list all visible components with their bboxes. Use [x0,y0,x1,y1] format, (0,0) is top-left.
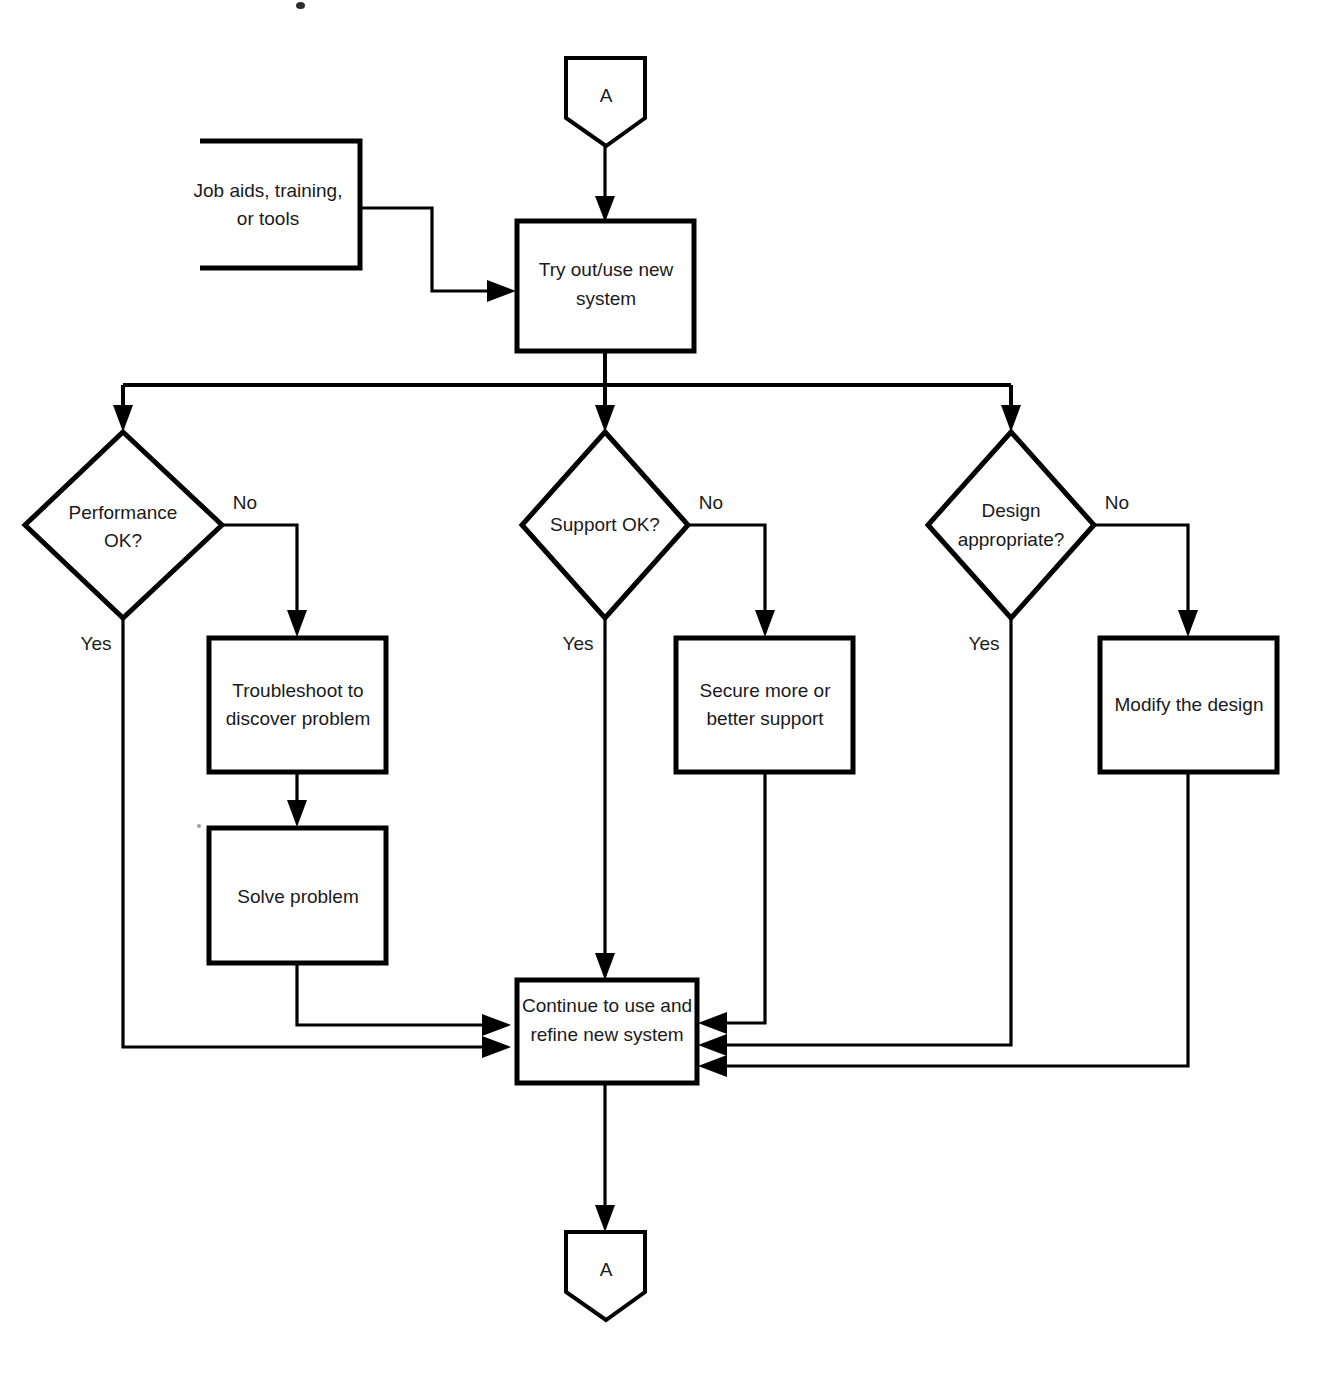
try-out-label-line2: system [576,288,636,309]
scan-speck [296,2,305,9]
arrowhead-job-aids [487,280,516,302]
secure-support-label-line1: Secure more or [700,680,832,701]
arrowhead-to-connector-a-bottom [595,1205,615,1232]
node-connector-a-bottom[interactable]: A [566,1232,645,1320]
continue-use-label-line1: Continue to use and [522,995,692,1016]
node-modify-design[interactable]: Modify the design [1100,638,1277,772]
edge-label-support-yes: Yes [563,633,594,654]
troubleshoot-label-line2: discover problem [226,708,371,729]
edge-label-design-yes: Yes [969,633,1000,654]
modify-design-label: Modify the design [1115,694,1264,715]
node-continue-use[interactable]: Continue to use and refine new system [517,980,697,1083]
decision-diamond-shape [928,432,1094,618]
node-try-out[interactable]: Try out/use new system [517,221,694,351]
process-box-shape [676,638,853,772]
edge-label-performance-no: No [233,492,257,513]
node-performance-ok[interactable]: Performance OK? [25,432,222,618]
flowchart-svg: Troubleshoot --> Continue (left route, l… [0,0,1334,1400]
arrowhead-to-support [595,405,615,432]
edge-modify-to-continue [722,772,1188,1066]
arrowhead-to-try-out [595,196,615,222]
node-troubleshoot[interactable]: Troubleshoot to discover problem [209,638,386,772]
arrowhead-to-performance [113,405,133,432]
edge-secure-to-continue [722,772,765,1023]
troubleshoot-label-line1: Troubleshoot to [232,680,363,701]
arrowhead-performance-yes [482,1036,511,1058]
edge-job-aids-to-try-out [360,208,492,291]
support-label-line1: Support OK? [550,514,660,535]
edge-design-no-to-modify [1094,525,1188,615]
edge-label-design-no: No [1105,492,1129,513]
open-left-resource-shape [200,141,360,268]
solve-problem-label: Solve problem [237,886,358,907]
connector-a-bottom-label: A [600,1259,613,1280]
arrowhead-to-troubleshoot [287,610,307,637]
flowchart-canvas: Troubleshoot --> Continue (left route, l… [0,0,1334,1400]
node-secure-support[interactable]: Secure more or better support [676,638,853,772]
try-out-label-line1: Try out/use new [539,259,674,280]
edge-label-support-no: No [699,492,723,513]
arrowhead-modify-to-continue [698,1055,727,1077]
arrowhead-to-modify [1178,610,1198,637]
process-box-shape [209,638,386,772]
arrowhead-secure-to-continue [698,1012,727,1034]
connector-a-top-label: A [600,85,613,106]
job-aids-label-line1: Job aids, training, [194,180,343,201]
node-job-aids[interactable]: Job aids, training, or tools [194,141,360,268]
design-label-line2: appropriate? [958,529,1065,550]
performance-label-line1: Performance [69,502,178,523]
edge-label-performance-yes: Yes [81,633,112,654]
node-connector-a-top[interactable]: A [566,58,645,146]
arrowhead-to-solve [287,800,307,827]
edge-performance-no-to-troubleshoot [222,525,297,615]
arrowhead-design-yes [698,1034,727,1056]
node-support-ok[interactable]: Support OK? [522,432,688,618]
design-label-line1: Design [981,500,1040,521]
arrowhead-solve-to-continue [482,1014,511,1036]
edge-solve-to-continue [297,963,487,1025]
edge-support-no-to-secure [688,525,765,615]
arrowhead-to-secure [755,610,775,637]
performance-label-line2: OK? [104,530,142,551]
arrowhead-support-yes [595,953,615,980]
scan-speck [197,824,201,828]
process-box-shape [517,221,694,351]
arrowhead-to-design [1001,405,1021,432]
decision-diamond-shape [25,432,222,618]
node-solve-problem[interactable]: Solve problem [209,828,386,963]
secure-support-label-line2: better support [706,708,824,729]
continue-use-label-line2: refine new system [530,1024,683,1045]
node-design-appropriate[interactable]: Design appropriate? [928,432,1094,618]
job-aids-label-line2: or tools [237,208,299,229]
